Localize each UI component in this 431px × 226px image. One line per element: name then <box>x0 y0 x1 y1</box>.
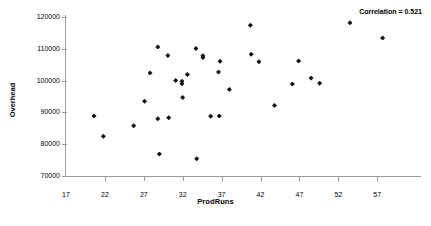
scatter-point <box>272 103 277 108</box>
scatter-point <box>101 134 106 139</box>
x-axis-tick <box>105 177 106 181</box>
scatter-point <box>347 20 352 25</box>
scatter-point <box>218 59 223 64</box>
scatter-point <box>131 123 136 128</box>
scatter-point <box>216 70 221 75</box>
scatter-point <box>290 82 295 87</box>
scatter-point <box>165 53 170 58</box>
scatter-point <box>173 78 178 83</box>
scatter-point <box>249 52 254 57</box>
y-axis-tick-label-text: 70000 <box>41 172 60 180</box>
scatter-point <box>248 23 253 28</box>
x-axis-tick <box>261 177 262 181</box>
scatter-point <box>155 116 160 121</box>
y-axis-title-text: Overhead <box>8 50 17 150</box>
x-axis-tick <box>338 177 339 181</box>
scatter-point <box>194 156 199 161</box>
x-axis-tick <box>222 177 223 181</box>
y-axis-tick-label-text: 120000 <box>37 13 60 21</box>
x-axis-tick <box>299 177 300 181</box>
plot-area <box>66 17 421 176</box>
x-axis-tick <box>377 177 378 181</box>
scatter-chart: 700008000090000100000110000120000 172227… <box>0 0 431 226</box>
correlation-annotation: Correlation = 0.521 <box>359 8 422 15</box>
scatter-point <box>157 152 162 157</box>
scatter-point <box>296 58 301 63</box>
y-axis-tick-label-text: 80000 <box>41 140 60 148</box>
scatter-point <box>155 44 160 49</box>
y-axis-tick-label-text: 110000 <box>37 45 60 53</box>
scatter-point <box>309 76 314 81</box>
scatter-point <box>380 35 385 40</box>
y-axis-title: Overhead <box>8 0 17 50</box>
x-axis-tick <box>144 177 145 181</box>
x-axis-title: ProdRuns <box>0 197 431 206</box>
y-axis-tick-label-text: 90000 <box>41 108 60 116</box>
x-axis-tick <box>183 177 184 181</box>
scatter-point <box>208 114 213 119</box>
scatter-point <box>185 72 190 77</box>
y-axis-tick <box>62 176 67 177</box>
scatter-point <box>227 87 232 92</box>
scatter-point <box>142 99 147 104</box>
scatter-point <box>193 46 198 51</box>
scatter-point <box>180 95 185 100</box>
scatter-point <box>92 113 97 118</box>
y-axis-tick-label: 70000 <box>0 172 60 180</box>
scatter-point <box>166 115 171 120</box>
scatter-point <box>256 59 261 64</box>
y-axis-tick-label-text: 100000 <box>37 77 60 85</box>
scatter-point <box>179 79 184 84</box>
scatter-point <box>148 70 153 75</box>
scatter-point <box>317 81 322 86</box>
scatter-point <box>217 113 222 118</box>
x-axis-line <box>66 176 421 177</box>
